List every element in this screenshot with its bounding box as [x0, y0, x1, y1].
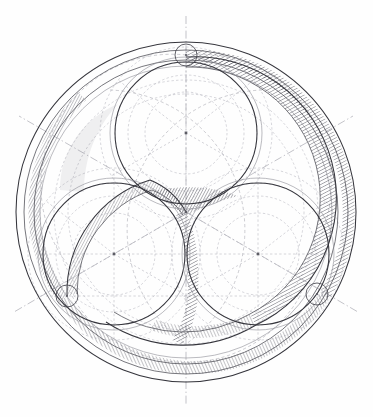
spoke-top-4 — [186, 80, 254, 133]
spoke-left-2 — [114, 254, 189, 297]
geometric-construction-drawing — [0, 0, 373, 417]
left-comma-inner-edge — [77, 190, 183, 294]
lower-right-node-dot — [316, 293, 318, 295]
trefoil-spiral-band — [60, 57, 336, 345]
figure-centre-dot — [185, 211, 187, 213]
top-lobe-centre-dot — [185, 132, 188, 135]
top-node-dot — [185, 54, 187, 56]
spiral-band-hatch-right-inner — [150, 314, 256, 338]
right-lobe-centre-dot — [257, 253, 260, 256]
lower-left-node-dot — [66, 295, 68, 297]
spoke-top-5 — [118, 80, 186, 133]
figure-root — [0, 0, 373, 417]
left-lobe-centre-dot — [113, 253, 116, 256]
spoke-top-3 — [111, 133, 186, 176]
spoke-top-2 — [186, 133, 261, 176]
